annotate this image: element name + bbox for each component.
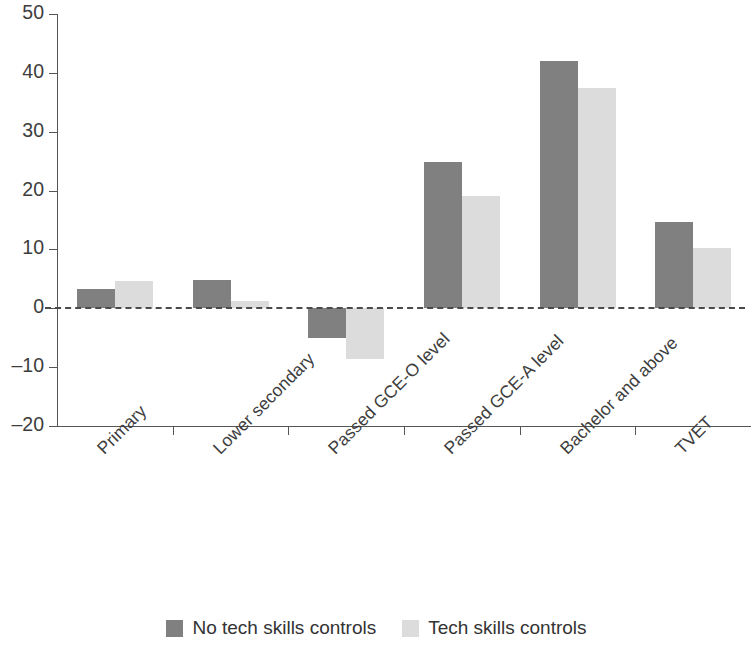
legend: No tech skills controlsTech skills contr… xyxy=(0,617,753,639)
bar xyxy=(308,308,346,337)
bar-chart: 50403020100–10–20 PrimaryLower secondary… xyxy=(0,0,753,653)
y-axis-tick-label: 50 xyxy=(0,1,44,24)
bar xyxy=(193,280,231,308)
bar xyxy=(346,308,384,359)
y-axis-tick-label: 10 xyxy=(0,236,44,259)
legend-item: Tech skills controls xyxy=(402,617,586,639)
y-axis-tick-mark xyxy=(49,73,57,74)
y-axis-tick-label: –10 xyxy=(0,354,44,377)
bar xyxy=(655,222,693,308)
bar xyxy=(693,248,731,308)
bar xyxy=(540,61,578,308)
y-axis-tick-label: 30 xyxy=(0,119,44,142)
y-axis-tick-label: 40 xyxy=(0,60,44,83)
bar xyxy=(462,196,500,308)
bar xyxy=(115,281,153,308)
legend-swatch-icon xyxy=(402,620,419,637)
legend-item: No tech skills controls xyxy=(166,617,376,639)
bar xyxy=(424,162,462,308)
legend-swatch-icon xyxy=(166,620,183,637)
bar xyxy=(77,289,115,308)
y-axis-tick-mark xyxy=(49,426,57,427)
y-axis-tick-mark xyxy=(49,249,57,250)
x-axis-category-tick xyxy=(520,426,521,435)
y-axis-tick-label: –20 xyxy=(0,413,44,436)
y-axis-tick-mark xyxy=(49,14,57,15)
x-axis-category-tick xyxy=(404,426,405,435)
y-axis-tick-mark xyxy=(49,367,57,368)
zero-reference-line xyxy=(45,307,745,309)
x-axis-category-tick xyxy=(173,426,174,435)
y-axis-tick-mark xyxy=(49,132,57,133)
legend-label: Tech skills controls xyxy=(428,617,586,639)
legend-label: No tech skills controls xyxy=(192,617,376,639)
x-axis-category-tick xyxy=(635,426,636,435)
y-axis-tick-label: 0 xyxy=(0,295,44,318)
y-axis-tick-mark xyxy=(49,191,57,192)
y-axis-tick-label: 20 xyxy=(0,178,44,201)
x-axis-category-tick xyxy=(288,426,289,435)
bar xyxy=(578,88,616,309)
